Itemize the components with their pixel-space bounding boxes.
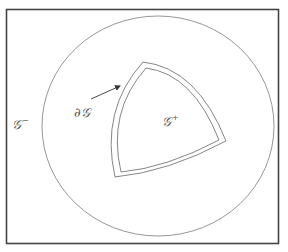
label-exterior-base: 𝒢 [12,117,21,132]
boundary-pointer-arrow [91,86,120,99]
outer-frame [7,10,279,244]
label-interior-region: 𝒢+ [162,114,179,128]
domain-diagram [0,0,288,252]
label-interior-sup: + [172,113,179,122]
label-exterior-sup: − [22,116,29,125]
label-interior-base: 𝒢 [162,114,171,129]
label-exterior-region: 𝒢− [12,117,29,131]
label-boundary-text: ∂𝒢 [74,105,90,120]
outer-circle [42,16,274,236]
label-boundary: ∂𝒢 [74,106,90,119]
